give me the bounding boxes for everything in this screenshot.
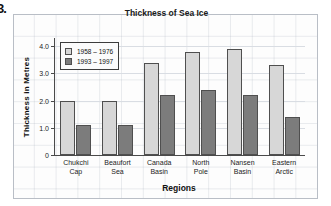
bar xyxy=(269,65,284,155)
bar-group xyxy=(144,38,175,155)
gridline xyxy=(55,128,305,129)
y-axis-tick xyxy=(51,101,55,102)
x-axis-category-label: Nansen Basin xyxy=(222,159,264,176)
bar-group xyxy=(185,38,216,155)
x-axis-category-label: North Pole xyxy=(180,159,222,176)
chart-title: Thickness of Sea Ice xyxy=(14,8,319,18)
bar-group xyxy=(227,38,258,155)
y-axis-tick xyxy=(51,46,55,47)
x-axis-label: Regions xyxy=(54,183,304,193)
legend-swatch-series-1 xyxy=(65,58,72,65)
chart-figure: Thickness of Sea Ice Thickness in Metres… xyxy=(13,14,318,199)
gridline xyxy=(55,73,305,74)
legend-item: 1958 – 1976 xyxy=(65,46,113,56)
bar xyxy=(160,95,175,155)
bar xyxy=(60,101,75,155)
bar xyxy=(201,90,216,155)
bar xyxy=(227,49,242,155)
legend-item: 1993 – 1997 xyxy=(65,56,113,66)
bar-group xyxy=(269,38,300,155)
bar xyxy=(118,125,133,155)
gridline xyxy=(55,101,305,102)
bar xyxy=(76,125,91,155)
x-axis-category-label: Eastern Arctic xyxy=(263,159,305,176)
bar xyxy=(285,117,300,155)
legend-swatch-series-0 xyxy=(65,48,72,55)
y-axis-tick-label: 3.0 xyxy=(39,70,49,77)
y-axis-tick-label: 1.0 xyxy=(39,124,49,131)
y-axis-tick xyxy=(51,155,55,156)
y-axis-tick-label: 4.0 xyxy=(39,43,49,50)
question-number: 3. xyxy=(0,2,6,15)
chart-legend: 1958 – 1976 1993 – 1997 xyxy=(60,42,119,70)
bar xyxy=(243,95,258,155)
y-axis-tick xyxy=(51,128,55,129)
y-axis-label: Thickness in Metres xyxy=(22,39,31,155)
x-axis-category-label: Canada Basin xyxy=(138,159,180,176)
x-axis-category-label: Beaufort Sea xyxy=(97,159,139,176)
y-axis-tick xyxy=(51,73,55,74)
bar xyxy=(185,52,200,155)
y-axis-tick-label: 2.0 xyxy=(39,97,49,104)
bar xyxy=(144,63,159,156)
x-axis-category-label: Chukchi Cap xyxy=(55,159,97,176)
legend-label-series-0: 1958 – 1976 xyxy=(77,48,113,55)
legend-label-series-1: 1993 – 1997 xyxy=(77,58,113,65)
y-axis-tick-label: 0 xyxy=(45,152,49,159)
bar xyxy=(102,101,117,155)
